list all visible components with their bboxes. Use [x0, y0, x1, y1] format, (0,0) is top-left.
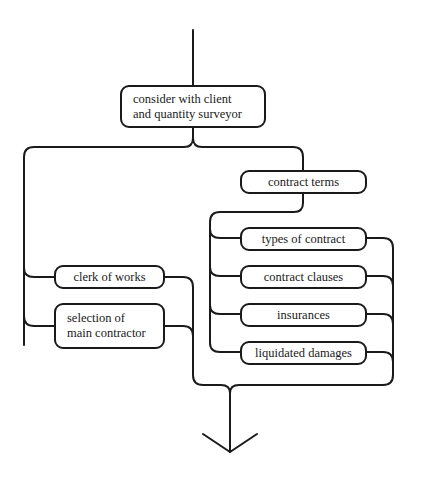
node-selection-of-main-contractor: selection of main contractor — [54, 303, 165, 349]
node-types-of-contract-label: types of contract — [262, 232, 345, 247]
merge-left — [165, 277, 230, 393]
node-consider-with-client: consider with client and quantity survey… — [120, 85, 266, 128]
node-contract-terms-label: contract terms — [268, 175, 339, 190]
node-liquidated-damages-label: liquidated damages — [255, 346, 352, 361]
node-insurances-label: insurances — [277, 308, 330, 323]
stub-insurances — [210, 305, 241, 314]
out-clauses — [367, 276, 393, 286]
stub-clauses — [210, 267, 241, 276]
node-insurances: insurances — [240, 303, 367, 327]
node-clerk-of-works: clerk of works — [54, 265, 165, 289]
node-types-of-contract: types of contract — [240, 227, 367, 251]
split-right-branch — [193, 138, 303, 171]
node-selection-line1: selection of — [67, 311, 146, 326]
node-contract-clauses: contract clauses — [240, 265, 367, 289]
out-insurances — [367, 314, 393, 324]
node-contract-terms: contract terms — [240, 170, 367, 194]
node-contract-clauses-label: contract clauses — [264, 270, 343, 285]
node-liquidated-damages: liquidated damages — [240, 341, 367, 365]
node-consider-line1: consider with client — [133, 92, 242, 107]
node-clerk-of-works-label: clerk of works — [73, 270, 145, 285]
stub-clerk — [24, 268, 55, 277]
node-selection-line2: main contractor — [67, 326, 146, 341]
merge-selection — [165, 326, 193, 336]
stub-types — [210, 229, 241, 238]
stub-selection — [24, 316, 55, 326]
node-consider-line2: and quantity surveyor — [133, 107, 242, 122]
flowchart-diagram: consider with client and quantity survey… — [0, 0, 421, 481]
out-liquidated — [367, 352, 393, 362]
